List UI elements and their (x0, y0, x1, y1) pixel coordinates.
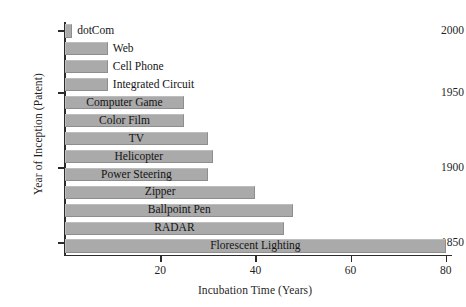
x-tick-label: 20 (140, 264, 180, 276)
bar-label: Cell Phone (113, 61, 164, 73)
y-tick-mark (58, 242, 65, 243)
x-tick-mark (446, 256, 447, 262)
x-tick-mark (351, 256, 352, 262)
bar (65, 24, 72, 37)
y-axis-title: Year of Inception (Patent) (32, 34, 44, 234)
bar-label: RADAR (65, 222, 284, 234)
bar (65, 42, 108, 55)
bar-label: dotCom (77, 25, 114, 37)
y-tick-mark (58, 92, 65, 93)
bar-label: Computer Game (65, 97, 184, 109)
x-tick-mark (160, 256, 161, 262)
y-tick-mark (58, 30, 65, 31)
bar-label: Zipper (65, 186, 255, 198)
bar-label: Power Steering (65, 169, 208, 181)
x-axis-title: Incubation Time (Years) (65, 284, 445, 296)
bar (65, 60, 108, 73)
bar-label: Integrated Circuit (113, 79, 194, 91)
bar-label: Web (113, 43, 134, 55)
bar-label: TV (65, 133, 208, 145)
bar (65, 78, 108, 91)
y-tick-mark (58, 167, 65, 168)
bar-label: Color Film (65, 115, 184, 127)
bar-label: Helicopter (65, 151, 213, 163)
bar-label: Ballpoint Pen (65, 204, 293, 216)
x-tick-mark (255, 256, 256, 262)
bar-label: Florescent Lighting (65, 240, 446, 252)
x-tick-label: 60 (331, 264, 371, 276)
x-tick-label: 40 (235, 264, 275, 276)
x-tick-label: 80 (426, 264, 466, 276)
